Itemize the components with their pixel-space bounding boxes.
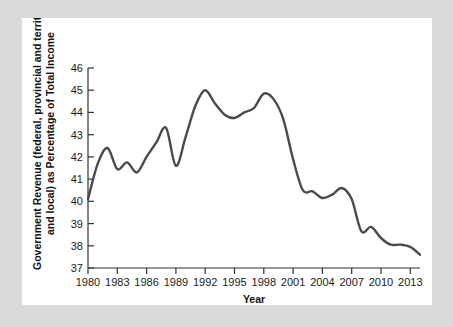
- chart-panel: Government Revenue (federal, provincial …: [22, 18, 432, 305]
- y-tick-label: 42: [71, 151, 83, 163]
- x-axis-label: Year: [243, 293, 265, 305]
- x-tick-label: 1992: [193, 276, 217, 288]
- x-tick-label: 2001: [281, 276, 305, 288]
- y-axis-ticks: 37 38 39 40 41 42 43 44 45 46: [71, 62, 94, 274]
- y-tick-label: 39: [71, 218, 83, 230]
- x-tick-label: 1989: [164, 276, 188, 288]
- y-tick-label: 40: [71, 195, 83, 207]
- y-tick-label: 43: [71, 129, 83, 141]
- x-tick-label: 1983: [105, 276, 129, 288]
- data-line-series: [88, 90, 420, 254]
- x-axis-ticks: 1980 1983 1986 1989 1992 1995 1998 2001 …: [76, 268, 423, 288]
- y-tick-label: 46: [71, 62, 83, 74]
- y-tick-label: 38: [71, 240, 83, 252]
- x-tick-label: 2013: [398, 276, 422, 288]
- y-axis-label: Government Revenue (federal, provincial …: [31, 18, 56, 270]
- x-tick-label: 2004: [310, 276, 334, 288]
- x-tick-label: 1980: [76, 276, 100, 288]
- y-tick-label: 45: [71, 84, 83, 96]
- y-tick-label: 37: [71, 262, 83, 274]
- y-axis-label-line2: and local) as Percentage of Total Income: [44, 32, 56, 235]
- x-tick-label: 1995: [222, 276, 246, 288]
- x-tick-label: 2010: [369, 276, 393, 288]
- x-tick-label: 1986: [134, 276, 158, 288]
- y-tick-label: 44: [71, 106, 83, 118]
- x-tick-label: 1998: [252, 276, 276, 288]
- line-chart: Government Revenue (federal, provincial …: [22, 18, 432, 305]
- x-tick-label: 2007: [339, 276, 363, 288]
- figure-frame: Government Revenue (federal, provincial …: [0, 0, 453, 327]
- y-axis-label-line1: Government Revenue (federal, provincial …: [31, 18, 43, 270]
- y-tick-label: 41: [71, 173, 83, 185]
